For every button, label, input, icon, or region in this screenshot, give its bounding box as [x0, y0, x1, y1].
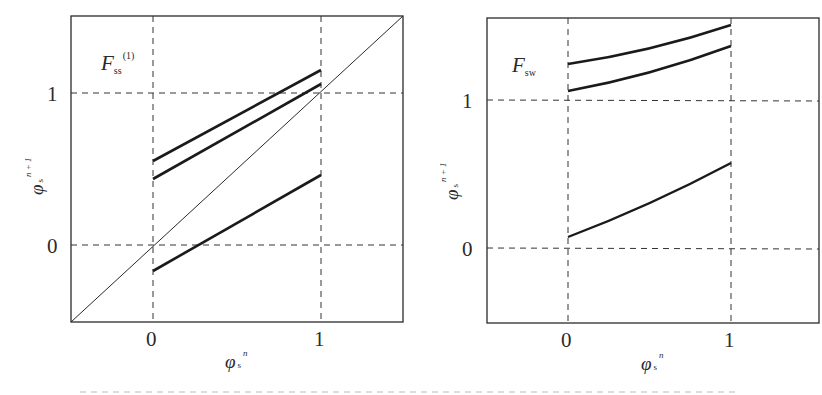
x-tick-1: 1	[724, 328, 735, 352]
dashed-gridlines	[487, 18, 819, 323]
x-tick-1: 1	[314, 327, 325, 351]
x-axis-label: φsn	[641, 350, 664, 374]
panel-label-fsw: Fsw	[511, 53, 537, 78]
cutoff-caption-strip	[0, 388, 822, 395]
series-middle	[568, 46, 731, 91]
x-axis-label: φsn	[225, 348, 248, 372]
plot-frame	[487, 18, 819, 323]
panel-label-fss: Fss(1)	[100, 50, 134, 76]
x-tick-0: 0	[146, 327, 157, 351]
y-tick-1: 1	[462, 89, 473, 113]
series-lower	[568, 163, 731, 237]
series-upper	[153, 70, 321, 161]
data-series	[568, 25, 731, 237]
y-tick-0: 0	[47, 234, 58, 258]
y-tick-1: 1	[47, 82, 58, 106]
y-axis-label: φsn + 1	[438, 162, 462, 200]
chart-panel-fss: Fss(1) 1 0 0 1 φsn φsn + 1	[0, 0, 411, 395]
series-upper	[568, 25, 731, 64]
y-axis-label: φsn + 1	[23, 157, 47, 195]
identity-line	[71, 16, 403, 322]
data-series	[153, 70, 321, 271]
series-middle	[153, 84, 321, 179]
chart-panel-fsw: Fsw 1 0 0 1 φsn φsn + 1	[411, 0, 822, 395]
y-tick-0: 0	[462, 237, 473, 261]
x-tick-0: 0	[561, 328, 572, 352]
